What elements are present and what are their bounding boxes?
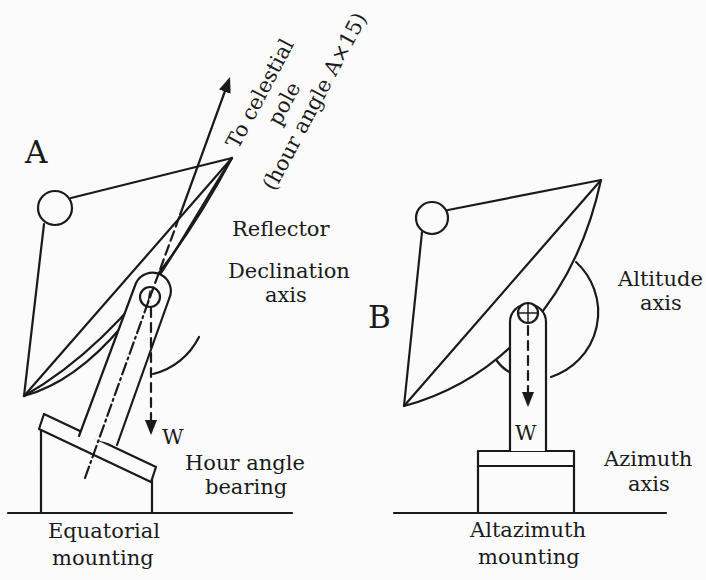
reflector-dish-b	[404, 180, 601, 406]
altazimuth-caption-2: mounting	[478, 545, 580, 569]
hour-angle-bearing-label-2: bearing	[205, 475, 287, 499]
altazimuth-caption-1: Altazimuth	[469, 518, 586, 542]
azimuth-base	[478, 451, 574, 513]
hour-angle-bearing-label-1: Hour angle	[185, 451, 305, 475]
panel-a-equatorial: A To celestial pole (hour angle A×15) Re…	[8, 0, 372, 570]
panel-b-letter: B	[368, 299, 391, 335]
panel-a-letter: A	[24, 134, 48, 170]
declination-axis-label-2: axis	[265, 283, 307, 307]
altitude-axis-label-1: Altitude	[617, 267, 703, 291]
azimuth-axis-label-1: Azimuth	[603, 447, 692, 471]
reflector-label: Reflector	[232, 217, 331, 241]
weight-label-a: W	[162, 425, 184, 449]
altitude-disc-b	[551, 262, 598, 377]
altitude-axis-label-2: axis	[640, 291, 682, 315]
weight-label-b: W	[515, 421, 537, 445]
equatorial-caption-1: Equatorial	[48, 519, 160, 543]
celestial-pole-arrow	[180, 80, 229, 215]
declination-axis-label-1: Declination	[228, 259, 350, 283]
panel-b-altazimuth: B Altitude axis W Azimuth axis Altazimut…	[368, 180, 703, 569]
azimuth-axis-label-2: axis	[628, 472, 670, 496]
declination-disc-a	[153, 337, 199, 374]
telescope-mountings-diagram: A To celestial pole (hour angle A×15) Re…	[0, 0, 706, 580]
celestial-pole-label: To celestial pole (hour angle A×15)	[212, 0, 372, 194]
fork-arm-a	[79, 273, 171, 445]
equatorial-caption-2: mounting	[52, 546, 154, 570]
